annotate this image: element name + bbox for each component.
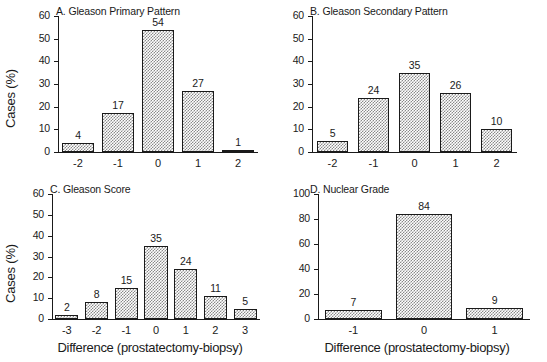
bar: [55, 315, 78, 319]
panel-d-plot-area: 0204060801007-184091: [318, 194, 530, 319]
y-axis-tick: [54, 129, 58, 130]
bar-value-label: 11: [204, 282, 227, 294]
y-axis-tick: [54, 152, 58, 153]
x-axis-tick-label: 0: [138, 157, 178, 169]
x-axis-tick-label: 0: [141, 324, 171, 336]
y-axis-tick-label: 60: [20, 9, 50, 21]
bar: [481, 129, 513, 152]
x-axis-tick-label: 2: [201, 324, 231, 336]
y-axis-tick-label: 80: [280, 212, 310, 224]
y-axis-tick-label: 50: [274, 32, 304, 44]
panel-d-x-axis-label: Difference (prostatectomy-biopsy): [292, 340, 542, 355]
x-axis-line: [52, 319, 260, 320]
bar-value-label: 10: [481, 115, 513, 127]
y-axis-tick-label: 30: [20, 77, 50, 89]
y-axis-tick: [48, 236, 52, 237]
y-axis-tick: [308, 84, 312, 85]
y-axis-tick: [314, 244, 318, 245]
bar-value-label: 8: [85, 288, 108, 300]
y-axis-tick-label: 20: [280, 287, 310, 299]
y-axis-tick: [314, 319, 318, 320]
x-axis-tick-label: 3: [230, 324, 260, 336]
bar: [144, 246, 167, 319]
bar: [142, 30, 173, 152]
bar-value-label: 84: [396, 200, 453, 212]
y-axis-tick-label: 0: [274, 145, 304, 157]
x-axis-tick-label: 1: [435, 157, 476, 169]
y-axis-tick-label: 0: [14, 312, 44, 324]
x-axis-tick-label: 1: [178, 157, 218, 169]
y-axis-tick: [308, 107, 312, 108]
panel-a-plot-area: 01020304050604-217-154027112: [58, 16, 258, 152]
y-axis-tick: [48, 194, 52, 195]
y-axis-tick-label: 10: [14, 291, 44, 303]
bar-value-label: 4: [62, 129, 93, 141]
y-axis-tick: [54, 61, 58, 62]
bar: [396, 214, 453, 319]
y-axis-tick: [48, 215, 52, 216]
y-axis-tick-label: 10: [274, 122, 304, 134]
x-axis-tick-label: -1: [111, 324, 141, 336]
y-axis-tick: [48, 277, 52, 278]
x-axis-tick-label: 1: [459, 324, 530, 336]
y-axis-tick-label: 60: [274, 9, 304, 21]
x-axis-tick-label: -2: [312, 157, 353, 169]
x-axis-tick-label: -1: [318, 324, 389, 336]
bar: [358, 98, 390, 152]
bar-value-label: 5: [234, 295, 257, 307]
y-axis-tick-label: 40: [280, 262, 310, 274]
y-axis-tick-label: 60: [280, 237, 310, 249]
y-axis-tick: [308, 16, 312, 17]
y-axis-tick: [314, 294, 318, 295]
y-axis-tick: [48, 257, 52, 258]
y-axis-tick: [314, 194, 318, 195]
bar-value-label: 15: [115, 274, 138, 286]
x-axis-tick-label: 0: [394, 157, 435, 169]
x-axis-tick-label: 2: [218, 157, 258, 169]
y-axis-line: [52, 194, 53, 319]
bar-value-label: 2: [55, 301, 78, 313]
y-axis-tick: [308, 129, 312, 130]
bar-value-label: 35: [399, 59, 431, 71]
bar-value-label: 24: [358, 84, 390, 96]
bar-value-label: 5: [317, 127, 349, 139]
bar: [325, 310, 382, 319]
y-axis-tick-label: 50: [14, 208, 44, 220]
y-axis-tick-label: 20: [14, 270, 44, 282]
bar: [399, 73, 431, 152]
bar-value-label: 35: [144, 232, 167, 244]
bar-value-label: 27: [182, 77, 213, 89]
y-axis-tick: [314, 269, 318, 270]
y-axis-tick: [54, 39, 58, 40]
y-axis-tick-label: 60: [14, 187, 44, 199]
x-axis-tick-label: -1: [353, 157, 394, 169]
x-axis-line: [312, 152, 517, 153]
panel-c-x-axis-label: Difference (prostatectomy-biopsy): [26, 340, 274, 355]
y-axis-tick: [308, 152, 312, 153]
x-axis-line: [58, 152, 258, 153]
bar-value-label: 17: [102, 99, 133, 111]
y-axis-tick-label: 30: [14, 250, 44, 262]
y-axis-tick: [308, 61, 312, 62]
y-axis-tick: [54, 84, 58, 85]
x-axis-tick-label: -3: [52, 324, 82, 336]
bar-value-label: 1: [222, 136, 253, 148]
bar: [204, 296, 227, 319]
y-axis-tick-label: 30: [274, 77, 304, 89]
bar-value-label: 26: [440, 79, 472, 91]
y-axis-line: [318, 194, 319, 319]
y-axis-line: [312, 16, 313, 152]
x-axis-tick-label: -1: [98, 157, 138, 169]
bar: [62, 143, 93, 152]
y-axis-tick-label: 0: [20, 145, 50, 157]
x-axis-tick-label: 2: [476, 157, 517, 169]
y-axis-tick-label: 20: [20, 100, 50, 112]
x-axis-line: [318, 319, 530, 320]
y-axis-tick-label: 20: [274, 100, 304, 112]
bar-value-label: 24: [174, 255, 197, 267]
bar: [102, 113, 133, 152]
bar: [466, 308, 523, 319]
y-axis-tick-label: 50: [20, 32, 50, 44]
bar-value-label: 9: [466, 294, 523, 306]
bar-value-label: 54: [142, 16, 173, 28]
